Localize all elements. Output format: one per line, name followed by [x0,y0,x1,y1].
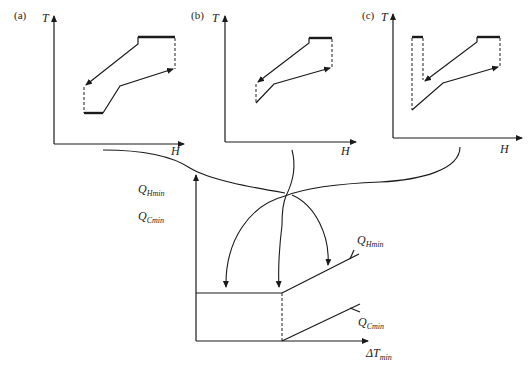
connector-from-panel-b [282,150,294,225]
panel-a-x-axis-label: H [170,144,181,158]
arrow-to-plateau-left [226,196,285,287]
panel-a-cold-curve [103,69,173,113]
panel-b-label: (b) [191,9,204,22]
panel-a: (a) T H [14,9,184,158]
panel-b: (b) T H [191,9,356,158]
q-hmin-slope-line [282,254,359,293]
y-label-q-hmin: QHmin [138,182,164,198]
panel-a-y-axis-label: T [42,11,50,25]
panel-c-y-axis-label: T [381,10,389,24]
diagram-canvas: (a) T H (b) T H (c) T H [0,0,531,370]
panel-c-hot-curve [425,37,477,81]
arrow-to-plateau-corner [279,225,282,287]
panel-c-cold-curve [412,67,498,110]
panel-c-label: (c) [362,9,375,22]
panel-b-y-axis-label: T [212,11,220,25]
connector-from-panel-c [285,147,460,196]
panel-a-label: (a) [14,9,27,22]
connector-from-panel-a [103,150,285,193]
line-label-q-cmin: QCmin [358,315,384,331]
q-cmin-leader [350,308,360,312]
panel-b-cold-curve [256,68,330,103]
q-cmin-slope-line [282,304,360,341]
arrow-to-hmin-slope [292,195,328,265]
panel-a-hot-curve [86,37,138,85]
line-label-q-hmin: QHmin [357,233,383,249]
panel-b-x-axis-label: H [340,144,351,158]
panel-c: (c) T H [362,9,522,156]
y-label-q-cmin: QCmin [138,209,164,225]
panel-c-x-axis-label: H [499,142,510,156]
x-label-delta-t-min: ΔTmin [365,346,392,362]
bottom-chart: QHmin QCmin QHmin QCmin ΔTmin [138,175,392,362]
panel-b-hot-curve [258,38,309,82]
